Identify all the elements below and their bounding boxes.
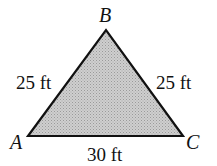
side-bc-length: 25 ft — [156, 72, 192, 93]
vertex-label-c: C — [186, 131, 200, 153]
vertex-label-a: A — [8, 131, 23, 153]
side-ab-length: 25 ft — [16, 72, 52, 93]
vertex-label-b: B — [99, 4, 111, 26]
side-ac-length: 30 ft — [87, 144, 123, 165]
triangle-diagram: B A C 25 ft 25 ft 30 ft — [0, 0, 217, 166]
